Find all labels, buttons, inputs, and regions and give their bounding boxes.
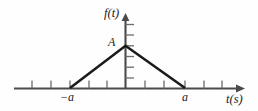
left-zero-label: −a [60,91,74,103]
x-axis-group [14,85,245,93]
right-zero-label: a [182,91,188,103]
amplitude-label: A [108,36,115,48]
x-axis-label: t(s) [226,93,243,106]
plot-canvas [0,0,258,111]
x-axis-ticks [32,81,222,89]
triangular-pulse-figure: f(t) A −a a t(s) [0,0,258,111]
y-axis-label: f(t) [104,7,119,20]
y-axis-arrow-icon [122,13,130,21]
